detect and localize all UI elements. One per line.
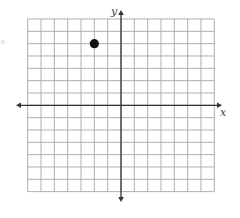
x-axis-label: x bbox=[220, 106, 227, 119]
coordinate-plane: x y s bbox=[0, 0, 240, 218]
axes bbox=[16, 10, 222, 202]
scan-artifact-mark: s bbox=[1, 38, 5, 46]
y-axis-label: y bbox=[110, 5, 118, 18]
arrow-left-icon bbox=[16, 103, 21, 109]
data-point bbox=[90, 39, 99, 48]
arrow-up-icon bbox=[118, 10, 124, 15]
arrow-down-icon bbox=[118, 197, 124, 202]
plotted-points bbox=[90, 39, 99, 48]
